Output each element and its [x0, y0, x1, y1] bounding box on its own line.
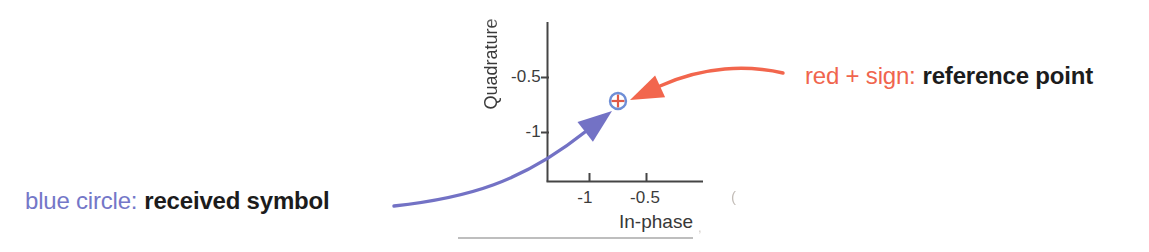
reference-point-callout: red + sign:reference point: [805, 62, 1093, 90]
reference-point-callout-lead: red + sign:: [805, 62, 916, 89]
x-tick-label-neg1: -1: [565, 188, 605, 208]
x-tick-label-neg05: -0.5: [621, 188, 669, 208]
received-symbol-callout: blue circle:received symbol: [25, 187, 329, 215]
received-symbol-arrowhead: [578, 111, 613, 142]
reference-point-arrow-shaft: [660, 68, 783, 86]
x-axis-title: In-phase: [606, 211, 706, 233]
received-symbol-callout-lead: blue circle:: [25, 187, 137, 214]
reference-point-arrowhead: [630, 75, 665, 100]
data-markers: [610, 93, 626, 109]
y-axis-title: Quadrature: [481, 0, 503, 129]
received-symbol-callout-label: received symbol: [144, 187, 329, 214]
scanned-figure-page: -0.5 -1 -1 -0.5 Quadrature In-phase ( , …: [0, 0, 1149, 252]
scan-artifact-paren: (: [731, 188, 736, 205]
reference-point-callout-label: reference point: [923, 62, 1093, 89]
received-symbol-arrow-shaft: [394, 132, 585, 206]
reference-point-arrow: [630, 68, 783, 100]
scan-artifact-comma: ,: [698, 220, 702, 235]
